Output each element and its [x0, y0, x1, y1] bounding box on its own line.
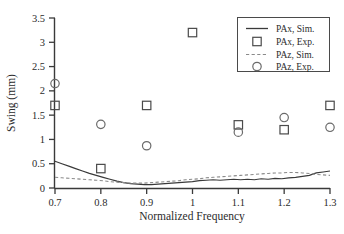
chart-figure: 00.511.522.533.5 0.70.80.911.11.21.3 Swi… [0, 0, 344, 234]
y-tick-label: 2.5 [32, 61, 45, 72]
y-tick-label: 1.5 [32, 110, 45, 121]
y-tick-label: 3 [40, 37, 45, 48]
legend-entry-label: PAx, Exp. [276, 37, 314, 47]
legend-entry-label: PAx, Sim. [276, 24, 314, 34]
x-tick-label: 1.2 [278, 197, 291, 208]
y-tick-label: 3.5 [32, 13, 45, 24]
legend-entry-label: PAz, Sim. [276, 50, 314, 60]
x-axis-title: Normalized Frequency [139, 210, 245, 223]
y-tick-label: 2 [40, 85, 45, 96]
scatter-line-chart: 00.511.522.533.5 0.70.80.911.11.21.3 Swi… [0, 0, 344, 234]
y-axis-title: Swing (mm) [5, 74, 18, 132]
x-tick-label: 0.9 [140, 197, 153, 208]
y-tick-label: 0 [40, 183, 45, 194]
y-tick-label: 0.5 [32, 158, 45, 169]
x-tick-label: 0.7 [48, 197, 61, 208]
x-tick-label: 1 [190, 197, 195, 208]
x-tick-label: 1.1 [232, 197, 245, 208]
y-tick-label: 1 [40, 134, 45, 145]
x-tick-label: 1.3 [323, 197, 336, 208]
chart-legend: PAx, Sim.PAx, Exp.PAz, Sim.PAz, Exp. [238, 18, 330, 72]
legend-entry-label: PAz, Exp. [276, 62, 314, 72]
x-tick-label: 0.8 [94, 197, 107, 208]
